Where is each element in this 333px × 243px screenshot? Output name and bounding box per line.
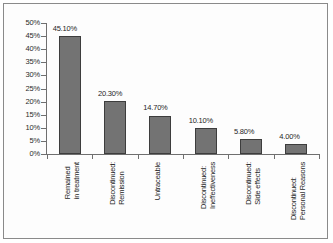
y-axis-tick-label: 30% [4, 71, 40, 79]
x-axis-tick [319, 155, 320, 159]
x-axis-category-label: Untraceable [154, 162, 163, 200]
plot-area [47, 23, 319, 154]
y-axis-tick-label: 25% [4, 85, 40, 93]
bar-value-label: 20.30% [98, 90, 122, 98]
y-axis-tick [41, 141, 46, 142]
x-axis-category-label: Discontinued:Personal Reasons [290, 162, 307, 220]
y-axis-tick [41, 49, 46, 50]
y-axis-tick [41, 89, 46, 90]
bar-value-label: 10.10% [189, 117, 213, 125]
x-axis-tick [138, 155, 139, 159]
x-axis-tick [274, 155, 275, 159]
x-axis-tick [183, 155, 184, 159]
category-label-line: Discontinued: [200, 162, 209, 209]
y-axis-tick-label: 5% [4, 137, 40, 145]
x-axis-tick [228, 155, 229, 159]
chart-figure-frame: 0%5%10%15%20%25%30%35%40%45%50% 45.10%20… [3, 3, 328, 239]
y-axis-tick-label: 0% [4, 150, 40, 158]
y-axis-tick-label: 20% [4, 98, 40, 106]
x-axis-category-label: Discontinued:Side effects [245, 162, 262, 205]
y-axis-tick [41, 36, 46, 37]
bar[interactable] [149, 116, 171, 155]
bar-value-label: 45.10% [53, 25, 77, 33]
y-axis-tick [41, 102, 46, 103]
y-axis-tick [41, 75, 46, 76]
category-label-line: Remission [118, 162, 127, 205]
bar[interactable] [195, 128, 217, 154]
y-axis-tick [41, 23, 46, 24]
y-axis-tick [41, 62, 46, 63]
x-axis-category-label: Remainedin treatment [64, 162, 81, 199]
bar-value-label: 14.70% [143, 104, 167, 112]
x-axis-category-label: Discontinued:Ineffectiveness [200, 162, 217, 209]
category-label-line: Untraceable [154, 162, 163, 200]
bar[interactable] [59, 36, 81, 154]
y-axis-tick-label: 45% [4, 32, 40, 40]
y-axis-tick-label: 40% [4, 45, 40, 53]
y-axis-tick [41, 154, 46, 155]
y-axis-tick [41, 115, 46, 116]
y-axis-tick-label: 10% [4, 124, 40, 132]
bar-chart: 0%5%10%15%20%25%30%35%40%45%50% 45.10%20… [4, 4, 327, 238]
category-label-line: in treatment [72, 162, 81, 199]
category-label-line: Side effects [254, 162, 263, 205]
y-axis-tick [41, 128, 46, 129]
y-axis-tick-label: 35% [4, 58, 40, 66]
bar[interactable] [104, 101, 126, 154]
category-label-line: Remained [64, 162, 73, 199]
category-label-line: Ineffectiveness [208, 162, 217, 209]
bar[interactable] [285, 144, 307, 154]
x-axis-category-label: Discontinued:Remission [109, 162, 126, 205]
y-axis-tick-label: 50% [4, 19, 40, 27]
x-axis-tick [47, 155, 48, 159]
category-label-line: Personal Reasons [299, 162, 308, 220]
bar-value-label: 5.80% [234, 128, 254, 136]
bar[interactable] [240, 139, 262, 154]
x-axis-tick [92, 155, 93, 159]
bar-value-label: 4.00% [279, 133, 299, 141]
y-axis-tick-label: 15% [4, 111, 40, 119]
